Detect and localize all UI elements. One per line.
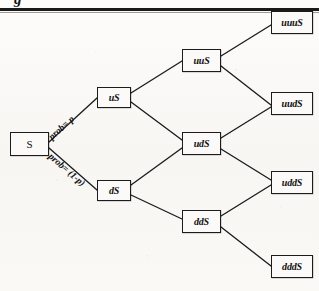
tree-node-S[interactable]: S [10, 132, 49, 156]
tree-edge-uuS-to-uuuS [221, 25, 271, 56]
tree-node-label: ddS [194, 217, 209, 227]
tree-node-uudS[interactable]: uudS [271, 92, 313, 115]
tree-node-label: dS [109, 186, 119, 196]
tree-edge-udS-to-uudS [221, 107, 271, 138]
tree-node-ddS[interactable]: ddS [182, 210, 221, 233]
tree-node-uuS[interactable]: uuS [182, 49, 221, 72]
tree-edge-udS-to-uddS [221, 149, 271, 180]
tree-node-udS[interactable]: udS [182, 132, 221, 155]
tree-edge-ddS-to-uddS [221, 185, 271, 216]
tree-edge-dS-to-udS [131, 148, 182, 185]
diagram-page: g SuSdSuuSudSddSuuuSuudSuddSdddS prob= p… [0, 0, 319, 291]
tree-node-uddS[interactable]: uddS [271, 171, 313, 194]
tree-node-label: dddS [282, 262, 302, 272]
tree-edge-ddS-to-dddS [221, 227, 271, 266]
tree-edge-uS-to-uuS [131, 61, 182, 93]
tree-node-uS[interactable]: uS [97, 87, 131, 108]
tree-node-label: uuuS [281, 18, 302, 28]
tree-node-label: uuS [193, 56, 209, 66]
tree-edge-uuS-to-uudS [221, 66, 271, 105]
tree-edge-dS-to-ddS [131, 195, 182, 219]
tree-node-label: udS [194, 139, 210, 149]
tree-node-uuuS[interactable]: uuuS [271, 11, 313, 34]
tree-edge-uS-to-udS [131, 102, 182, 140]
tree-node-dS[interactable]: dS [97, 180, 131, 201]
tree-node-label: uS [109, 93, 120, 103]
tree-node-label: uddS [282, 178, 302, 188]
tree-node-dddS[interactable]: dddS [271, 255, 313, 278]
tree-node-label: S [27, 139, 33, 150]
tree-node-label: uudS [282, 99, 303, 109]
